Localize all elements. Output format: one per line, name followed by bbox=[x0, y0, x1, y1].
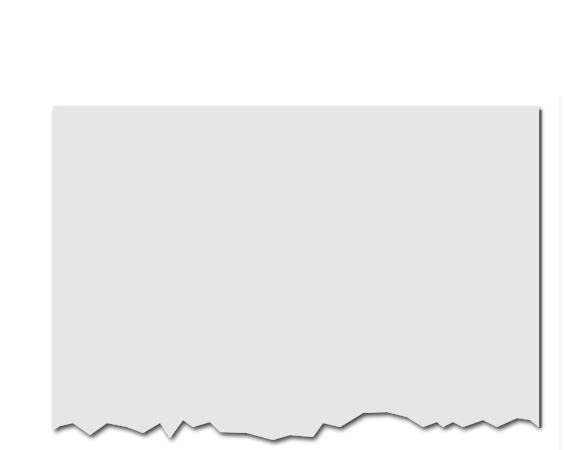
worksheet-canvas bbox=[0, 0, 564, 450]
question-panel bbox=[53, 106, 539, 440]
